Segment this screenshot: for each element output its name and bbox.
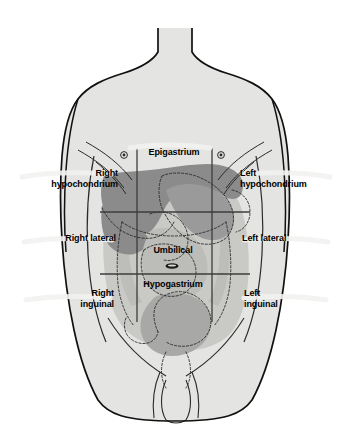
label-hypogastrium: Hypogastrium (118, 279, 228, 290)
label-right-inguinal: Right inguinal (12, 288, 114, 309)
label-left-inguinal: Left inguinal (244, 288, 346, 309)
torso-anatomy-illustration (0, 0, 351, 424)
label-left-lateral: Left lateral (242, 233, 346, 244)
abdominal-regions-diagram: Epigastrium Right hypochondrium Left hyp… (0, 0, 351, 424)
label-right-lateral: Right lateral (12, 233, 116, 244)
label-epigastrium: Epigastrium (122, 147, 226, 158)
label-umbilical: Umbilical (124, 245, 222, 256)
label-left-hypochondrium: Left hypochondrium (240, 168, 346, 189)
label-right-hypochondrium: Right hypochondrium (12, 168, 118, 189)
umbilicus-marker (166, 263, 179, 269)
